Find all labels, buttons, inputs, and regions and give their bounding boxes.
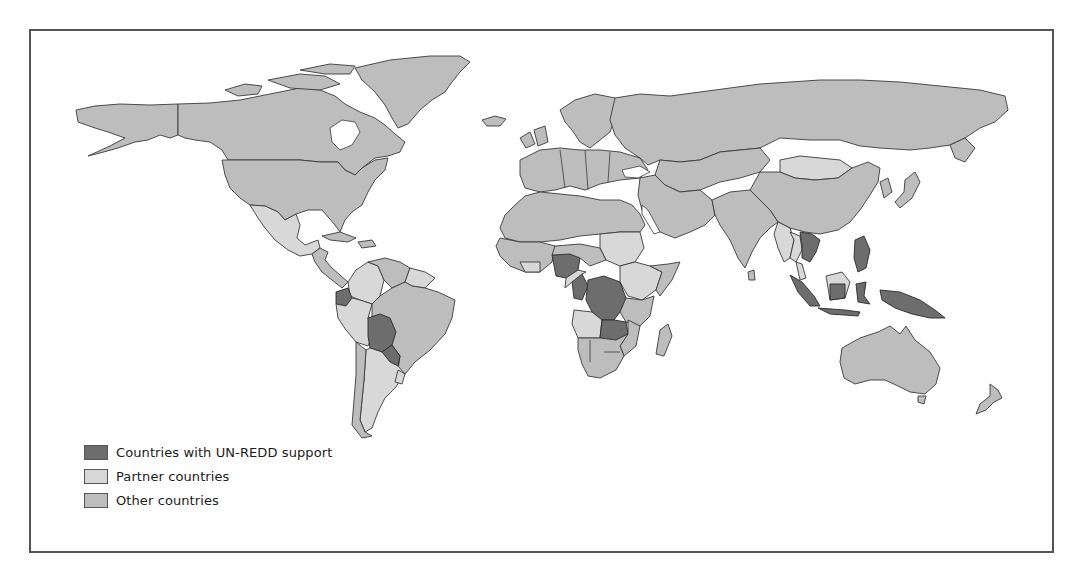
country-new-zealand[interactable] <box>976 384 1002 414</box>
legend-swatch-partner <box>84 469 108 484</box>
north-america <box>76 56 506 288</box>
country-russia[interactable] <box>610 80 1008 165</box>
country-papua-new-guinea[interactable] <box>880 290 945 318</box>
legend-label: Countries with UN-REDD support <box>116 445 332 460</box>
legend-item-unredd: Countries with UN-REDD support <box>84 440 332 464</box>
legend-item-other: Other countries <box>84 488 332 512</box>
legend-item-partner: Partner countries <box>84 464 332 488</box>
country-indonesia-sumatra[interactable] <box>790 275 820 306</box>
legend-swatch-unredd <box>84 445 108 460</box>
country-japan[interactable] <box>895 172 920 208</box>
country-usa[interactable] <box>222 158 388 232</box>
country-indonesia-kalimantan[interactable] <box>830 284 845 300</box>
legend-swatch-other <box>84 493 108 508</box>
central-america[interactable] <box>312 248 348 288</box>
country-sudan[interactable] <box>600 232 644 266</box>
country-australia[interactable] <box>840 326 940 394</box>
south-america <box>336 258 455 438</box>
country-philippines[interactable] <box>854 236 870 272</box>
country-vietnam[interactable] <box>800 232 820 262</box>
legend-label: Other countries <box>116 493 219 508</box>
oceania <box>840 326 1002 414</box>
southern-africa[interactable] <box>578 334 628 378</box>
country-alaska[interactable] <box>76 104 178 156</box>
map-legend: Countries with UN-REDD support Partner c… <box>84 440 332 512</box>
legend-label: Partner countries <box>116 469 229 484</box>
country-peru[interactable] <box>336 298 372 346</box>
country-madagascar[interactable] <box>656 324 672 356</box>
